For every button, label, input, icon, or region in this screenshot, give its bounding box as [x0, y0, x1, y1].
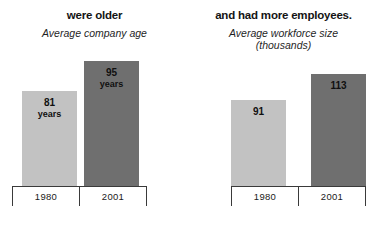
panel-title: and had more employees. — [189, 9, 378, 22]
bar-label-1980: 81 years — [22, 97, 77, 120]
chart-panel-workforce-size: and had more employees. Average workforc… — [189, 0, 378, 225]
bar-value-2001: 95 — [106, 67, 117, 78]
panel-subtitle-line1: Average workforce size — [229, 27, 338, 39]
plot-area: 81 years 95 years — [0, 55, 189, 186]
bar-chart-figure: were older Average company age 81 years … — [0, 0, 378, 225]
bar-2001: 95 years — [84, 61, 139, 186]
x-axis: 1980 2001 — [231, 186, 366, 206]
bar-value-2001: 113 — [330, 80, 346, 91]
bar-label-2001: 113 — [311, 80, 366, 92]
panel-subtitle-line2: (thousands) — [189, 39, 378, 51]
panel-subtitle: Average workforce size (thousands) — [189, 27, 378, 51]
axis-tick-label-1980: 1980 — [232, 187, 298, 206]
bar-unit-1980: years — [22, 109, 77, 121]
bar-unit-2001: years — [84, 79, 139, 91]
bar-1980: 81 years — [22, 91, 77, 186]
panel-subtitle: Average company age — [0, 27, 189, 39]
panel-subtitle-line1: Average company age — [42, 27, 147, 39]
bar-label-2001: 95 years — [84, 67, 139, 90]
axis-tick-label-2001: 2001 — [79, 187, 146, 206]
chart-panel-company-age: were older Average company age 81 years … — [0, 0, 189, 225]
bar-1980: 91 — [231, 100, 286, 186]
bar-label-1980: 91 — [231, 106, 286, 118]
bar-2001: 113 — [311, 74, 366, 186]
bar-value-1980: 91 — [253, 106, 264, 117]
bar-value-1980: 81 — [44, 97, 55, 108]
axis-tick-label-1980: 1980 — [13, 187, 79, 206]
axis-tick-label-2001: 2001 — [298, 187, 365, 206]
panel-title: were older — [0, 9, 189, 22]
x-axis: 1980 2001 — [12, 186, 147, 206]
plot-area: 91 113 — [189, 55, 378, 186]
